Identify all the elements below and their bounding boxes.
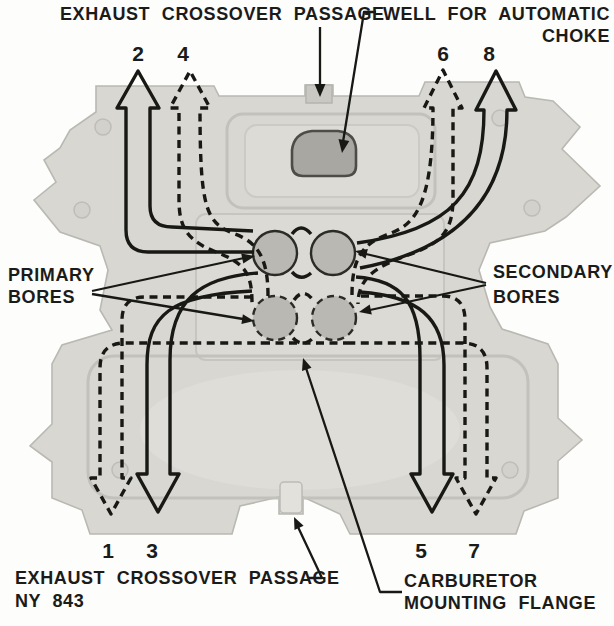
- cylinder-number-8: 8: [477, 43, 501, 65]
- label-figure-code: NY 843: [15, 591, 84, 611]
- casting-boss: [502, 462, 518, 478]
- bore-primary-lower: [253, 296, 297, 340]
- label-carburetor-flange-line2: MOUNTING FLANGE: [404, 593, 596, 613]
- label-secondary-bores-line2: BORES: [493, 287, 560, 307]
- label-primary-bores-line1: PRIMARY: [8, 265, 95, 285]
- cylinder-number-1: 1: [96, 540, 120, 562]
- label-exhaust-crossover-passage-bottom: EXHAUST CROSSOVER PASSAGE: [15, 568, 340, 588]
- lower-plenum-shading: [140, 370, 460, 490]
- cylinder-number-2: 2: [126, 43, 150, 65]
- casting-boss: [524, 200, 540, 216]
- bore-secondary-upper: [311, 231, 355, 275]
- label-carburetor-flange-line1: CARBURETOR: [404, 571, 538, 591]
- diagram-artwork: [0, 0, 614, 626]
- cylinder-number-7: 7: [462, 540, 486, 562]
- label-well-for-automatic-choke-line1: WELL FOR AUTOMATIC: [383, 4, 610, 24]
- cylinder-number-4: 4: [171, 43, 195, 65]
- exhaust-crossover-boss-bottom: [280, 482, 302, 513]
- cylinder-number-6: 6: [431, 43, 455, 65]
- casting-boss: [74, 202, 90, 218]
- label-secondary-bores-line1: SECONDARY: [493, 262, 613, 282]
- casting-boss: [112, 462, 128, 478]
- casting-boss: [95, 119, 111, 135]
- cylinder-number-3: 3: [140, 540, 164, 562]
- choke-well: [292, 131, 356, 176]
- label-primary-bores-line2: BORES: [8, 287, 75, 307]
- cylinder-number-5: 5: [409, 540, 433, 562]
- manifold-flow-diagram: EXHAUST CROSSOVER PASSAGE WELL FOR AUTOM…: [0, 0, 614, 626]
- label-well-for-automatic-choke-line2: CHOKE: [542, 26, 610, 46]
- label-exhaust-crossover-passage-top: EXHAUST CROSSOVER PASSAGE: [60, 4, 385, 24]
- bore-secondary-lower: [312, 296, 356, 340]
